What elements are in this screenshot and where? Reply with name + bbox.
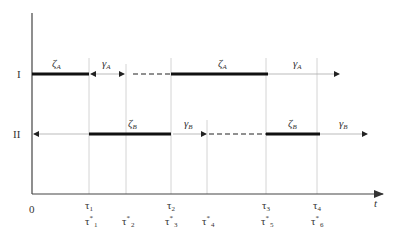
svg-text:τ3: τ3 [262, 199, 270, 213]
row-label-I: I [17, 68, 21, 80]
svg-text:γB: γB [184, 117, 193, 131]
tau-star-labels: τ*1 τ*2 τ*3 τ*4 τ*5 τ*6 [85, 214, 324, 229]
svg-text:τ*3: τ*3 [165, 214, 178, 229]
svg-text:τ*2: τ*2 [122, 214, 135, 229]
origin-label: 0 [29, 203, 35, 215]
svg-text:γA: γA [102, 57, 111, 71]
svg-text:γB: γB [339, 117, 348, 131]
svg-text:τ1: τ1 [85, 199, 93, 213]
svg-text:τ2: τ2 [167, 199, 175, 213]
svg-text:ζB: ζB [128, 117, 137, 131]
svg-text:ζB: ζB [288, 117, 297, 131]
row-II-segment-labels: ζB γB ζB γB [128, 117, 348, 131]
tick-grid-lines [89, 58, 317, 194]
x-axis-label: t [374, 197, 378, 209]
row-label-II: II [13, 128, 21, 140]
svg-text:ζA: ζA [52, 57, 61, 71]
timeline-diagram: I II ζA γA ζA γA ζB γB ζB γB 0 t τ1 τ2 τ… [0, 0, 400, 238]
svg-text:τ4: τ4 [313, 199, 321, 213]
tau-labels: τ1 τ2 τ3 τ4 [85, 199, 321, 213]
svg-text:τ*6: τ*6 [311, 214, 324, 229]
svg-text:γA: γA [293, 57, 302, 71]
row-I-segment-labels: ζA γA ζA γA [52, 57, 302, 71]
svg-text:τ*5: τ*5 [261, 214, 274, 229]
svg-text:τ*1: τ*1 [85, 214, 98, 229]
svg-text:ζA: ζA [218, 57, 227, 71]
svg-text:τ*4: τ*4 [202, 214, 215, 229]
